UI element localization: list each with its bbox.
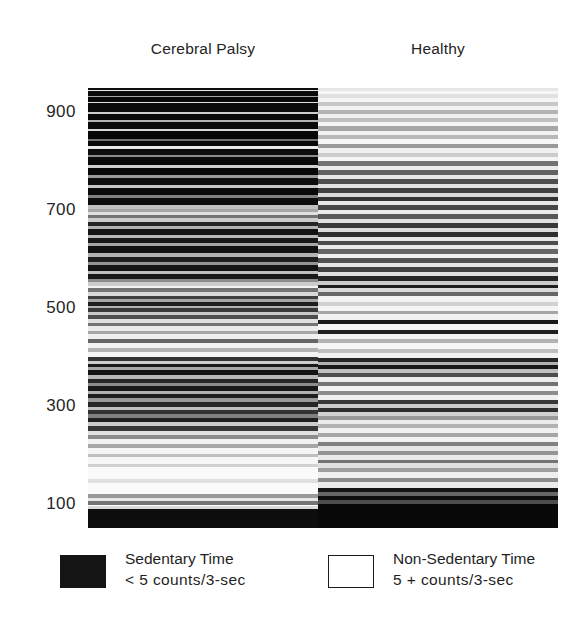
- y-axis: 900700500300100: [0, 88, 88, 528]
- chart-band: [318, 504, 558, 528]
- legend-swatch-sedentary-icon: [60, 555, 106, 588]
- y-tick-label: 500: [46, 298, 76, 318]
- column-header-cerebral-palsy: Cerebral Palsy: [88, 40, 318, 58]
- chart-band: [88, 178, 318, 185]
- chart-band: [88, 103, 318, 112]
- y-tick-label: 700: [46, 200, 76, 220]
- y-tick-label: 900: [46, 102, 76, 122]
- chart-band: [88, 246, 318, 253]
- chart-band: [88, 168, 318, 175]
- chart-band: [88, 509, 318, 528]
- chart-band: [88, 198, 318, 205]
- legend-item-non-sedentary: Non-Sedentary Time 5 + counts/3-sec: [328, 548, 535, 590]
- legend-sedentary-line1: Sedentary Time: [125, 548, 246, 569]
- y-tick-label: 100: [46, 494, 76, 514]
- column-header-healthy: Healthy: [318, 40, 558, 58]
- chart-band: [88, 131, 318, 139]
- legend-non-sedentary-line1: Non-Sedentary Time: [393, 548, 535, 569]
- chart-band: [88, 157, 318, 165]
- legend-non-sedentary-line2: 5 + counts/3-sec: [393, 569, 535, 590]
- legend: Sedentary Time < 5 counts/3-sec Non-Sede…: [0, 548, 586, 628]
- chart-band: [88, 149, 318, 156]
- y-tick-label: 300: [46, 396, 76, 416]
- legend-swatch-non-sedentary-icon: [328, 555, 374, 588]
- legend-text-non-sedentary: Non-Sedentary Time 5 + counts/3-sec: [393, 548, 535, 590]
- figure-root: Cerebral Palsy Healthy 900700500300100 S…: [0, 0, 586, 642]
- legend-sedentary-line2: < 5 counts/3-sec: [125, 569, 246, 590]
- plot-area: [88, 88, 558, 528]
- chart-band: [88, 457, 318, 465]
- legend-item-sedentary: Sedentary Time < 5 counts/3-sec: [60, 548, 246, 590]
- chart-band: [88, 467, 318, 479]
- panel-healthy: [318, 88, 558, 528]
- chart-band: [88, 122, 318, 129]
- chart-band: [88, 188, 318, 195]
- chart-band: [88, 483, 318, 494]
- legend-text-sedentary: Sedentary Time < 5 counts/3-sec: [125, 548, 246, 590]
- panel-cerebral-palsy: [88, 88, 318, 528]
